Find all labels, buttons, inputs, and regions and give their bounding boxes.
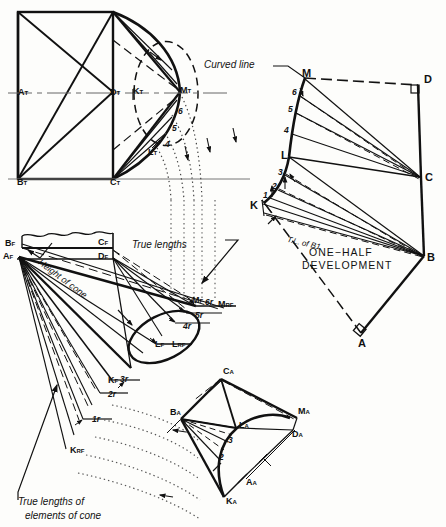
dev-element-6-C — [300, 96, 420, 177]
point-label-AF: AF — [3, 252, 13, 261]
dev-number-4: 4 — [284, 126, 289, 135]
tl-label-5r: 5r — [195, 311, 203, 320]
point-label-MRF: MRF — [218, 300, 234, 309]
tl-label-6r: 6r — [205, 298, 213, 307]
transfer-arc-3 — [95, 437, 198, 478]
front-element-h — [19, 257, 66, 449]
true-lengths-leader — [202, 240, 238, 283]
aux-number-2: 2 — [219, 453, 224, 462]
projection-arc-arrows — [185, 128, 236, 160]
top-view-group — [8, 12, 250, 179]
top-view-number-6: 6 — [178, 107, 183, 116]
aux-number-3: 3 — [228, 436, 233, 445]
point-label-BT: BT — [17, 178, 27, 187]
development-title-line2: DEVELOPMENT — [302, 260, 392, 271]
of-cone-arrow — [118, 310, 132, 325]
aux-edge-CB — [181, 379, 221, 419]
proj-arrow-1 — [233, 128, 236, 142]
dev-number-1: 1 — [263, 191, 268, 200]
point-label-MT: MT — [180, 86, 191, 95]
point-label-AT: AT — [18, 88, 28, 97]
front-view-break-top — [22, 232, 113, 237]
proj-arrow-2 — [207, 138, 210, 152]
point-label-C: C — [425, 172, 433, 183]
point-label-M: M — [302, 68, 311, 79]
dev-edge-MD — [305, 78, 418, 85]
dev-number-2: 2 — [272, 182, 277, 191]
dev-edge-CB — [421, 178, 424, 256]
point-label-DA: DA — [292, 430, 303, 439]
point-label-BF: BF — [5, 239, 15, 248]
point-label-LA: LA — [239, 421, 249, 430]
aux-hidden-ca — [193, 379, 221, 401]
top-view-number-4: 4 — [165, 140, 170, 149]
point-label-MF: MF — [192, 296, 203, 305]
point-label-A: A — [358, 338, 366, 349]
dev-edge-DC — [418, 85, 421, 178]
curved-line-label: Curved line — [204, 60, 255, 70]
tl-label-4r: 4r — [183, 322, 191, 331]
point-label-KF: KF — [108, 376, 118, 385]
point-label-KRF: KRF — [70, 446, 85, 455]
point-label-BA: BA — [170, 408, 181, 417]
transfer-arrow-2 — [160, 495, 173, 497]
point-label-K: K — [250, 200, 258, 211]
front-element-cf-1 — [113, 258, 195, 306]
dev-number-5: 5 — [288, 105, 293, 114]
top-view-diagonal-4 — [18, 12, 113, 179]
point-label-LT: LT — [148, 148, 157, 157]
tl-label-3r: 3r — [120, 375, 128, 384]
true-lengths-elements-label1: True lengths of — [18, 497, 84, 507]
curved-line-leader — [273, 66, 305, 78]
top-view-element-u5 — [113, 12, 172, 70]
point-label-KA: KA — [226, 497, 237, 506]
point-label-CT: CT — [110, 178, 120, 187]
top-view-number-5: 5 — [172, 124, 177, 133]
development-group — [262, 78, 424, 336]
transfer-arrow-1 — [173, 430, 186, 432]
top-view-element-5 — [113, 117, 172, 179]
top-view-diagonal-1 — [18, 12, 113, 92]
aux-edge-CM — [221, 379, 297, 418]
point-label-CF: CF — [98, 238, 108, 247]
point-label-KT: KT — [133, 87, 143, 96]
dev-tick-k — [268, 216, 276, 224]
point-label-DT: DT — [110, 88, 120, 97]
point-label-LF: LF — [155, 340, 164, 349]
transfer-arc-arrows — [160, 430, 186, 497]
point-label-D: D — [424, 74, 432, 85]
point-label-MA: MA — [298, 407, 310, 416]
point-label-CA: CA — [223, 367, 234, 376]
dev-element-4-C — [292, 134, 420, 177]
top-view-diagonal-3 — [18, 92, 113, 179]
tl-label-2r: 2r — [108, 390, 116, 399]
true-lengths-elements-label2: elements of cone — [25, 511, 101, 521]
development-title-line1: ONE−HALF — [309, 247, 373, 258]
top-view-element-4 — [113, 134, 165, 179]
dev-number-6: 6 — [292, 88, 297, 97]
proj-arc-4 — [157, 148, 171, 200]
point-label-LRF: LRF — [172, 340, 186, 349]
dev-number-3: 3 — [278, 168, 283, 177]
proj-arc-1 — [180, 93, 202, 200]
technical-drawing-canvas: AT DT KT MT BT CT LT 6 5 4 Curved line M… — [0, 0, 446, 527]
tl-arrow-1 — [75, 420, 82, 425]
transfer-arc-4 — [86, 455, 200, 500]
point-label-AA: AA — [246, 478, 257, 487]
tl-label-1r: 1r — [92, 415, 100, 424]
aux-edge-AD — [244, 430, 293, 477]
true-lengths-elements-leader — [18, 385, 57, 500]
aux-hidden-2 — [181, 419, 224, 450]
point-label-L: L — [281, 150, 288, 161]
projection-drop-lines — [171, 200, 215, 300]
aux-axis-line — [246, 430, 295, 479]
point-label-DF: DF — [98, 252, 108, 261]
true-lengths-label: True lengths — [132, 240, 187, 250]
aux-hidden-cm — [223, 381, 294, 419]
point-label-B: B — [427, 252, 435, 263]
height-of-cone-arrow — [28, 250, 40, 258]
